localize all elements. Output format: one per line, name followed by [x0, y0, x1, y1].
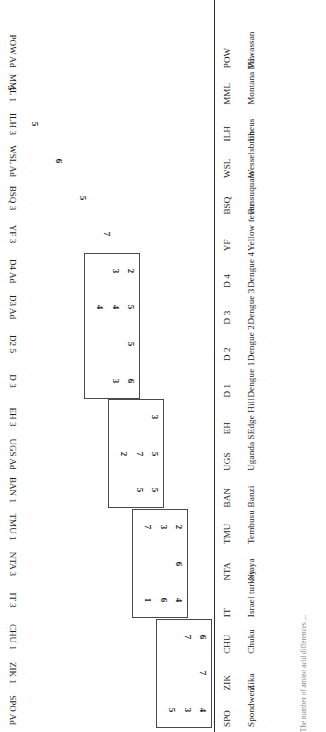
row-label-name: Dengue 4	[246, 252, 256, 288]
diagonal-group-box	[84, 253, 140, 399]
column-header: YF 3	[8, 217, 18, 251]
column-header: D4 Ad	[8, 254, 18, 288]
column-header: IT 3	[8, 583, 18, 617]
row-label-name: Dengue 3	[246, 289, 256, 325]
column-header: BAN 1	[8, 473, 18, 507]
column-header: UGS Ad	[8, 437, 18, 471]
matrix-figure: SPO AdZIK 1CHU 1IT 3NTA 3TMU 1BAN 1UGS A…	[0, 0, 326, 732]
row-label-abbr: D 2	[222, 347, 232, 361]
row-label-abbr: D 3	[222, 311, 232, 325]
row-label-name: Zika	[246, 673, 256, 690]
row-label-name: Chuku	[246, 629, 256, 654]
figure-caption: The number of amino acid differences ...	[300, 32, 308, 732]
column-header: ILH 3	[8, 107, 18, 141]
row-label-name: Ntaya	[246, 558, 256, 580]
row-label-abbr: CHU	[222, 634, 232, 654]
column-header: SPO Ad	[8, 693, 18, 727]
matrix-cell-value: 6	[54, 155, 64, 167]
row-label-name: Ilheus	[246, 119, 256, 142]
row-label-abbr: YF	[222, 239, 232, 251]
matrix-cell-value: 5	[78, 192, 88, 204]
column-header-strip: SPO AdZIK 1CHU 1IT 3NTA 3TMU 1BAN 1UGS A…	[0, 0, 30, 732]
column-header: D 3	[8, 364, 18, 398]
row-label-abbr: UGS	[222, 452, 232, 471]
row-label-abbr: MML	[222, 83, 232, 105]
column-header: D2 5	[8, 327, 18, 361]
column-header: EH 3	[8, 400, 18, 434]
row-label-abbr: SPO	[222, 710, 232, 727]
figure-canvas: SPO AdZIK 1CHU 1IT 3NTA 3TMU 1BAN 1UGS A…	[0, 0, 326, 732]
row-label-abbr: NTA	[222, 562, 232, 580]
row-label-abbr: IT	[222, 608, 232, 617]
row-label-abbr: ILH	[222, 126, 232, 141]
row-label-abbr: POW	[222, 48, 232, 69]
column-header: WSL Ad	[8, 144, 18, 178]
row-label-abbr: D 1	[222, 384, 232, 398]
column-header: CHU 1	[8, 620, 18, 654]
matrix-cell-value: 7	[102, 228, 112, 240]
table-rule	[214, 0, 215, 732]
row-label-name: Spondweni	[246, 685, 256, 727]
row-label-name: Powassan	[246, 32, 256, 69]
column-header: TMU 1	[8, 510, 18, 544]
column-header: ZIK 1	[8, 656, 18, 690]
matrix-cell-value: 5	[6, 82, 16, 94]
row-label-abbr: ZIK	[222, 675, 232, 690]
diagonal-group-box	[132, 509, 188, 618]
row-label-name: Dengue 1	[246, 362, 256, 398]
row-label-abbr: EH	[222, 422, 232, 434]
row-label-abbr: WSL	[222, 159, 232, 179]
row-label-abbr: BAN	[222, 488, 232, 508]
row-label-name: Edge Hill	[246, 398, 256, 434]
row-label-name: Uganda S	[246, 434, 256, 470]
diagonal-group-box	[108, 399, 164, 508]
column-header: NTA 3	[8, 547, 18, 581]
row-label-name: Banzi	[246, 486, 256, 508]
row-label-abbr: TMU	[222, 523, 232, 544]
row-label-name: Dengue 2	[246, 325, 256, 361]
row-label-stack: SpondweniSPOZikaZIKChukuCHUIsrael turkey…	[216, 0, 276, 732]
diagonal-group-box	[156, 619, 212, 728]
row-label-name: Tembusu	[246, 510, 256, 544]
matrix-cell-value: 5	[30, 118, 40, 130]
row-label-abbr: D 4	[222, 274, 232, 288]
row-label-abbr: BSQ	[222, 197, 232, 215]
matrix-plot-area: 435767461623755572363554423756556	[34, 0, 210, 732]
column-header: D3 Ad	[8, 290, 18, 324]
column-header: POW Ad	[8, 34, 18, 68]
column-header: BSQ 3	[8, 181, 18, 215]
